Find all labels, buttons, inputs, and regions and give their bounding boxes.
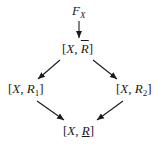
node-upper: [X, R] bbox=[62, 42, 93, 56]
edge-upper-to-right bbox=[93, 60, 117, 79]
node-top-sub: X bbox=[80, 10, 86, 20]
node-bottom-rel: R bbox=[82, 123, 90, 138]
edge-left-to-bottom bbox=[37, 101, 64, 120]
node-bottom: [X, R] bbox=[63, 124, 94, 138]
node-top: FX bbox=[72, 4, 85, 18]
bracket-close: ] bbox=[89, 41, 93, 56]
node-left: [X, R1] bbox=[8, 82, 44, 96]
bracket-close: ] bbox=[147, 81, 151, 96]
node-right: [X, R2] bbox=[116, 82, 152, 96]
bracket-close: ] bbox=[90, 123, 94, 138]
bracket-close: ] bbox=[39, 81, 43, 96]
edge-right-to-bottom bbox=[97, 101, 123, 120]
node-right-rel: R bbox=[135, 81, 143, 96]
node-upper-rel: R bbox=[81, 41, 89, 56]
edge-upper-to-left bbox=[38, 60, 60, 79]
node-left-rel: R bbox=[27, 81, 35, 96]
node-top-main: F bbox=[72, 3, 80, 18]
